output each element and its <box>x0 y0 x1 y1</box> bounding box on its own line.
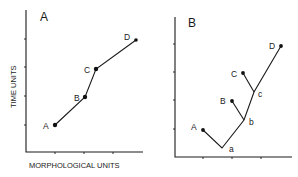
panel-a: A A B C D TIME UNITS MORPHOLOGICAL UNITS <box>9 10 143 170</box>
panel-a-point-d-label: D <box>124 32 130 42</box>
panel-b-axes <box>175 17 292 157</box>
panel-b: B A B C D a b c <box>173 16 292 159</box>
panel-a-point-a-label: A <box>43 121 49 131</box>
panel-a-point-c-label: C <box>84 65 90 75</box>
panel-b-node-b-label: b <box>249 117 254 127</box>
panel-a-point-b <box>83 95 87 99</box>
panel-a-title: A <box>40 10 48 24</box>
panel-b-node-c-label: c <box>258 89 263 99</box>
panel-a-x-axis-label: MORPHOLOGICAL UNITS <box>29 161 120 170</box>
panel-a-lineage-line <box>55 40 136 125</box>
panel-b-title: B <box>188 16 196 30</box>
panel-b-terminal-c-label: C <box>231 69 237 79</box>
panel-a-point-a <box>53 123 57 127</box>
panel-b-branch-c <box>243 73 254 92</box>
panel-b-terminal-d <box>279 44 283 48</box>
panel-a-point-c <box>94 67 98 71</box>
panel-a-point-d <box>134 38 138 42</box>
figure: A A B C D TIME UNITS MORPHOLOGICAL UNITS <box>0 0 298 177</box>
panel-a-point-b-label: B <box>74 93 80 103</box>
panel-b-tree <box>203 46 281 148</box>
panel-b-branch-b <box>232 101 244 120</box>
panel-b-terminal-d-label: D <box>269 41 275 51</box>
panel-b-terminal-b-label: B <box>220 96 226 106</box>
panel-b-terminal-b <box>230 99 234 103</box>
panel-a-y-axis-label: TIME UNITS <box>9 66 18 109</box>
panel-b-terminal-c <box>241 71 245 75</box>
panel-b-terminal-a <box>201 128 205 132</box>
panel-b-terminal-a-label: A <box>191 122 197 132</box>
panel-b-main-branch <box>203 46 281 148</box>
panel-b-node-a-label: a <box>229 144 234 154</box>
